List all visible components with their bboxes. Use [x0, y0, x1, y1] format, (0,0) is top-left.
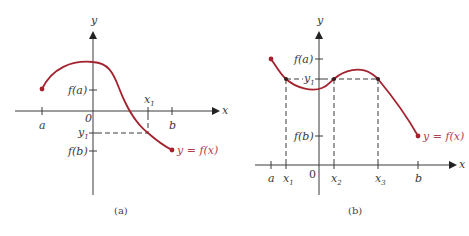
panel-a: x y 0 a b x1 f(a) y1 f(b) y = f(x) (a) — [15, 14, 229, 216]
curve-label: y = f(x) — [422, 130, 464, 143]
tick-label-b: b — [415, 172, 422, 185]
tick-label-fa: f(a) — [67, 84, 87, 97]
tick-label-fb: f(b) — [293, 130, 314, 143]
intersection-x3 — [376, 77, 380, 81]
function-curve — [271, 59, 418, 136]
intermediate-value-theorem-figure: x y 0 a b x1 f(a) y1 f(b) y = f(x) (a) x… — [0, 0, 469, 236]
endpoint-b — [170, 148, 175, 153]
tick-label-fa: f(a) — [293, 53, 313, 66]
y-axis-label: y — [90, 14, 98, 27]
tick-label-fb: f(b) — [67, 145, 88, 158]
y-axis-label: y — [316, 14, 324, 27]
origin-label: 0 — [309, 168, 316, 181]
tick-label-a: a — [268, 172, 275, 185]
x-axis-label: x — [459, 158, 466, 171]
endpoint-b — [416, 134, 421, 139]
intersection-x1 — [284, 77, 288, 81]
tick-label-y1: y1 — [303, 72, 315, 87]
caption-a: (a) — [114, 205, 128, 216]
origin-label: 0 — [85, 112, 92, 125]
curve-label: y = f(x) — [176, 144, 218, 157]
endpoint-a — [269, 57, 274, 62]
intersection-x2 — [332, 77, 336, 81]
panel-b: x y 0 a x1 x2 x3 b f(a) y1 f(b) y = f — [255, 14, 466, 216]
tick-label-x1: x1 — [144, 93, 155, 108]
tick-label-x1: x1 — [283, 172, 294, 187]
tick-label-b: b — [169, 119, 176, 132]
tick-label-y1: y1 — [77, 126, 89, 141]
tick-label-a: a — [39, 119, 46, 132]
tick-label-x2: x2 — [331, 172, 342, 187]
caption-b: (b) — [348, 205, 362, 216]
x-axis-label: x — [222, 104, 229, 117]
endpoint-a — [40, 87, 45, 92]
tick-label-x3: x3 — [375, 172, 386, 187]
